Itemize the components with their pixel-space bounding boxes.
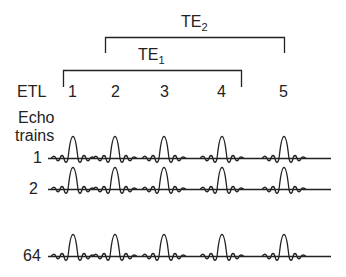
echo-train-row-1 xyxy=(48,137,331,163)
te1-bracket xyxy=(64,71,242,88)
echo-train-row-2 xyxy=(48,168,331,194)
diagram-canvas xyxy=(0,0,346,277)
te2-bracket xyxy=(106,38,285,54)
echo-train-row-64 xyxy=(48,235,331,261)
